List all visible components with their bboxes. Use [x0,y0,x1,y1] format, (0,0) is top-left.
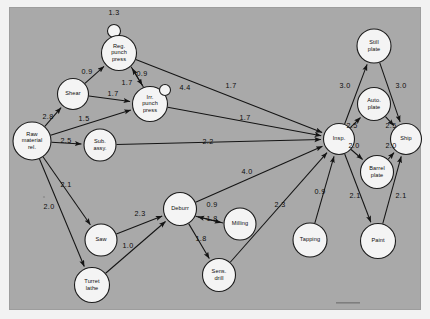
node-label-irr: punch [142,100,158,106]
node-tapping[interactable]: Tapping [293,223,327,257]
edge-label-auto-to-ship: 2.5 [386,121,397,130]
edge-label-insp-to-still: 3.0 [340,81,351,90]
edge-label-raw-to-turret: 2.0 [44,202,55,211]
node-label-turret: Turret [84,278,100,284]
node-label-irr: Irr. [147,94,154,100]
edge-label-deburr-to-insp: 4.0 [242,167,253,176]
node-label-raw: Raw [26,131,38,137]
node-label-paint: Paint [371,237,385,243]
node-label-sens: drill [214,275,223,281]
edge-barrel-to-ship [388,153,394,160]
edge-label-irr-to-reg: 0.9 [137,69,148,78]
node-label-still: plate [368,46,381,52]
edge-label-sens-to-insp: 2.3 [275,200,286,209]
node-deburr[interactable]: Deburr [164,193,197,226]
node-turret[interactable]: Turretlathe [75,268,110,303]
edge-label-reg-to-insp: 1.7 [226,81,237,90]
edge-label-deburr-to-sens: 1.8 [196,234,207,243]
edge-label-irr-to-insp: 1.7 [240,113,251,122]
node-label-sub: assy. [93,145,106,151]
nodes-layer: Reg.punchpressShearIrr.punchpressRawmate… [13,25,422,303]
node-label-reg: press [112,56,126,62]
node-shear[interactable]: Shear [58,79,89,110]
edge-raw-to-turret [40,159,85,266]
edge-deburr-to-insp [196,146,323,202]
node-label-sub: Sub. [94,138,106,144]
bottom-mark [336,302,360,304]
node-label-reg: punch [111,49,127,55]
edge-sub-to-insp [116,139,320,144]
node-label-milling: Milling [232,220,249,226]
node-label-auto: plate [368,104,381,110]
edge-label-deburr-to-milling: 0.9 [207,200,218,209]
node-label-raw: rel. [28,144,37,150]
node-irr_loop[interactable] [160,85,171,96]
node-label-reg: Reg. [113,43,126,49]
node-label-ship: Ship [400,135,412,141]
node-label-deburr: Deburr [171,205,189,211]
node-label-insp: Insp. [333,135,346,141]
node-label-saw: Saw [95,236,107,242]
edge-label-raw-to-sub: 2.5 [61,136,72,145]
edge-label-sub-to-insp: 2.2 [203,137,214,146]
node-label-still: Still [369,39,379,45]
edge-label-paint-to-ship: 2.1 [396,191,407,200]
node-label-raw: material [22,137,43,143]
node-raw[interactable]: Rawmaterialrel. [13,122,51,160]
node-label-tapping: Tapping [300,236,320,242]
edge-label-raw-to-irr: 1.5 [79,114,90,123]
node-auto[interactable]: Auto.plate [358,88,391,121]
node-paint[interactable]: Paint [361,224,396,259]
edge-saw-to-deburr [116,216,162,234]
node-barrel[interactable]: Barrelplate [361,156,394,189]
edge-label-saw-to-deburr: 2.3 [135,209,146,218]
edge-label-shear-to-reg: 0.9 [82,67,93,76]
network-graph: Reg.punchpressShearIrr.punchpressRawmate… [0,0,430,319]
node-sub[interactable]: Sub.assy. [84,129,116,161]
node-label-barrel: plate [371,172,384,178]
node-saw[interactable]: Saw [85,224,117,256]
edge-label-tapping-to-insp: 0.9 [315,187,326,196]
edge-raw-to-saw [43,157,90,225]
edge-insp-to-barrel [351,149,363,159]
edge-label-raw-to-shear: 2.8 [43,112,54,121]
edge-label-barrel-to-ship: 2.0 [386,141,397,150]
edge-label-turret-to-deburr: 1.0 [123,241,134,250]
edge-label-still-to-ship: 3.0 [396,81,407,90]
diagram-page: Reg.punchpressShearIrr.punchpressRawmate… [0,0,430,319]
node-label-barrel: Barrel [369,165,385,171]
node-label-shear: Shear [65,90,80,96]
node-reg[interactable]: Reg.punchpress [102,36,137,71]
node-label-auto: Auto. [367,97,381,103]
edge-label-insp-to-barrel: 2.0 [349,141,360,150]
edge-label-shear-to-irr: 1.7 [108,89,119,98]
edge-label-milling-to-deburr: 1.8 [207,214,218,223]
edge-label-irr-to-irr: 4.4 [180,83,191,92]
node-milling[interactable]: Milling [224,208,256,240]
speck-mark [43,196,45,198]
edge-label-insp-to-auto: 2.5 [347,121,358,130]
edge-label-insp-to-paint: 2.1 [350,191,361,200]
node-label-sens: Sens. [212,268,227,274]
node-sens[interactable]: Sens.drill [203,259,236,292]
edge-label-raw-to-saw: 2.1 [61,180,72,189]
node-still[interactable]: Stillplate [357,29,391,63]
node-circle-irr_loop [160,85,171,96]
node-label-irr: press [143,107,157,113]
edge-label-reg-to-reg: 1.3 [109,8,120,17]
node-label-turret: lathe [86,285,99,291]
edge-label-reg-to-irr: 1.7 [122,78,133,87]
